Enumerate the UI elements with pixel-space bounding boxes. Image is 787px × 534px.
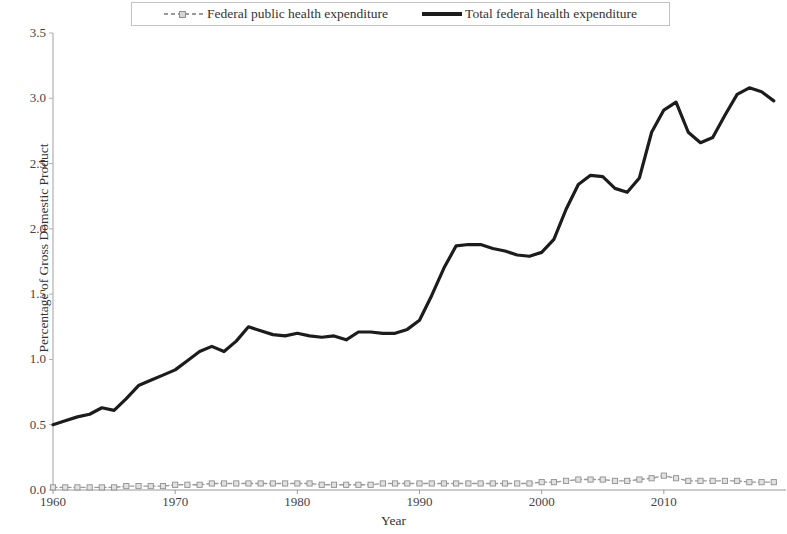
- plot-area: [0, 0, 787, 534]
- series-marker-0: [221, 481, 226, 486]
- series-marker-0: [173, 482, 178, 487]
- series-marker-0: [673, 476, 678, 481]
- series-marker-0: [283, 481, 288, 486]
- series-marker-0: [747, 480, 752, 485]
- series-marker-0: [185, 482, 190, 487]
- series-marker-0: [160, 483, 165, 488]
- series-marker-0: [209, 481, 214, 486]
- series-marker-0: [63, 485, 68, 490]
- series-marker-0: [686, 478, 691, 483]
- series-marker-0: [551, 480, 556, 485]
- series-marker-0: [527, 481, 532, 486]
- series-marker-0: [319, 482, 324, 487]
- series-marker-0: [625, 478, 630, 483]
- series-marker-0: [722, 478, 727, 483]
- series-marker-0: [612, 478, 617, 483]
- series-marker-0: [405, 481, 410, 486]
- series-marker-0: [637, 477, 642, 482]
- series-marker-0: [429, 481, 434, 486]
- series-marker-0: [759, 480, 764, 485]
- series-marker-0: [539, 480, 544, 485]
- series-marker-0: [246, 481, 251, 486]
- series-marker-0: [466, 481, 471, 486]
- series-marker-0: [234, 481, 239, 486]
- series-marker-0: [502, 481, 507, 486]
- series-marker-0: [649, 476, 654, 481]
- series-marker-0: [136, 483, 141, 488]
- series-marker-0: [441, 481, 446, 486]
- series-marker-0: [392, 481, 397, 486]
- series-marker-0: [454, 481, 459, 486]
- series-marker-0: [735, 478, 740, 483]
- series-marker-0: [600, 477, 605, 482]
- series-marker-0: [295, 481, 300, 486]
- series-marker-0: [490, 481, 495, 486]
- series-marker-0: [99, 485, 104, 490]
- series-marker-0: [515, 481, 520, 486]
- series-marker-0: [698, 478, 703, 483]
- chart-figure: Federal public health expenditure Total …: [0, 0, 787, 534]
- series-marker-0: [564, 478, 569, 483]
- series-marker-0: [50, 485, 55, 490]
- series-marker-0: [478, 481, 483, 486]
- series-marker-0: [270, 481, 275, 486]
- series-marker-0: [344, 482, 349, 487]
- series-marker-0: [87, 485, 92, 490]
- series-marker-0: [75, 485, 80, 490]
- series-marker-0: [661, 473, 666, 478]
- series-marker-0: [148, 483, 153, 488]
- series-marker-0: [368, 482, 373, 487]
- series-marker-0: [307, 481, 312, 486]
- series-marker-0: [771, 480, 776, 485]
- series-marker-0: [356, 482, 361, 487]
- series-marker-0: [197, 482, 202, 487]
- series-marker-0: [710, 478, 715, 483]
- series-marker-0: [588, 477, 593, 482]
- series-marker-0: [380, 481, 385, 486]
- series-line-1: [53, 88, 774, 425]
- series-marker-0: [124, 483, 129, 488]
- series-marker-0: [576, 477, 581, 482]
- series-marker-0: [331, 482, 336, 487]
- series-marker-0: [111, 485, 116, 490]
- series-marker-0: [258, 481, 263, 486]
- series-marker-0: [417, 481, 422, 486]
